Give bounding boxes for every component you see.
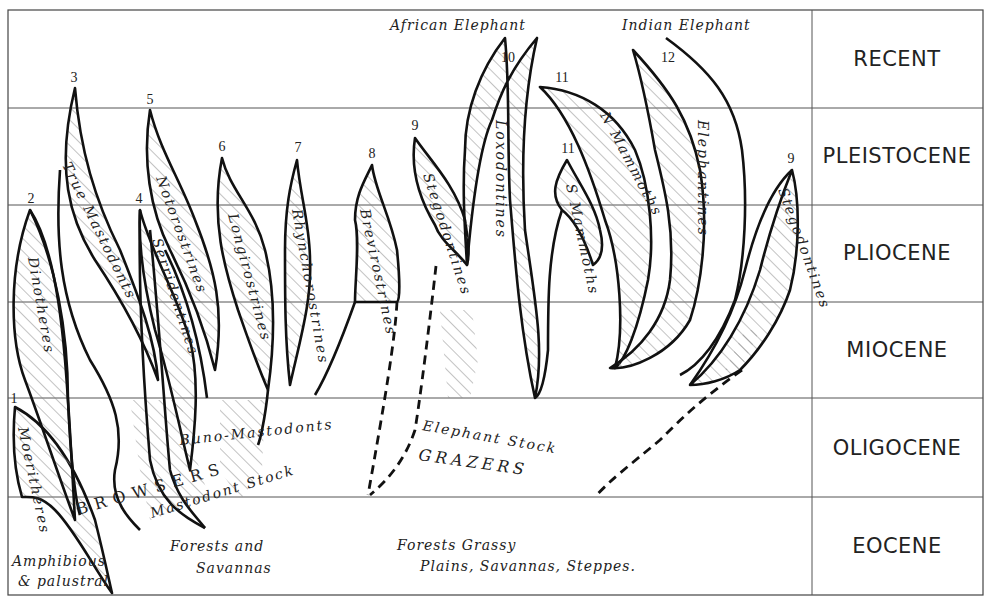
svg-text:1: 1 (11, 391, 18, 406)
savannas-label: Savannas (196, 560, 272, 576)
svg-text:4: 4 (136, 191, 143, 206)
svg-text:12: 12 (661, 50, 675, 65)
svg-text:8: 8 (369, 146, 376, 161)
living-species-labels: African Elephant Indian Elephant (388, 17, 751, 33)
epoch-pliocene: PLIOCENE (843, 241, 951, 265)
svg-text:2: 2 (28, 191, 35, 206)
svg-text:7: 7 (295, 140, 302, 155)
svg-text:5: 5 (147, 92, 154, 107)
svg-text:Loxodontines: Loxodontines (493, 119, 509, 239)
branch-rhynchorostrines: 7 Rhynchorostrines (285, 140, 332, 385)
stegodont-stem-hatch (440, 310, 478, 398)
grazers-label: GRAZERS (417, 445, 529, 479)
svg-text:11: 11 (561, 141, 574, 156)
epoch-recent: RECENT (853, 47, 940, 71)
amphibious-label: Amphibious (10, 553, 106, 569)
branch-longirostrines: 6 Longirostrines (218, 139, 275, 445)
svg-text:Elephantines: Elephantines (695, 119, 711, 237)
epoch-eocene: EOCENE (852, 534, 942, 558)
svg-text:10: 10 (501, 50, 515, 65)
svg-text:6: 6 (219, 139, 226, 154)
epoch-miocene: MIOCENE (846, 338, 947, 362)
proboscidean-phylogeny-diagram: RECENT PLEISTOCENE PLIOCENE MIOCENE OLIG… (0, 0, 993, 610)
svg-text:11: 11 (555, 70, 568, 85)
epoch-oligocene: OLIGOCENE (833, 436, 962, 460)
svg-text:True Mastodonts: True Mastodonts (59, 159, 140, 302)
svg-text:9: 9 (788, 151, 795, 166)
branch-brevirostrines: 8 Brevirostrines (315, 146, 400, 495)
palustral-label: & palustral (18, 573, 109, 589)
indian-elephant-label: Indian Elephant (621, 17, 751, 33)
epoch-pleistocene: PLEISTOCENE (823, 144, 972, 168)
plains-savannas-steppes-label: Plains, Savannas, Steppes. (419, 558, 636, 574)
african-elephant-label: African Elephant (388, 17, 526, 33)
habitat-labels: Amphibious & palustral Forests and Savan… (10, 537, 636, 589)
forests-label: Forests and (169, 538, 264, 554)
forests-grassy-label: Forests Grassy (396, 537, 516, 553)
svg-text:9: 9 (412, 118, 419, 133)
svg-text:3: 3 (71, 70, 78, 85)
